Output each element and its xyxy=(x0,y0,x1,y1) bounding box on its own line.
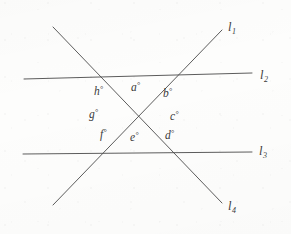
line-l3 xyxy=(23,152,252,154)
angle-label-c: c° xyxy=(170,110,179,123)
degree-symbol-icon: ° xyxy=(171,128,174,138)
line-l1 xyxy=(53,30,222,205)
degree-symbol-icon: ° xyxy=(95,107,98,117)
line-label-l1-subscript: 1 xyxy=(232,27,236,36)
angle-label-f: f° xyxy=(100,128,107,141)
degree-symbol-icon: ° xyxy=(169,86,172,96)
angle-label-b-text: b xyxy=(163,87,169,99)
angle-label-b: b° xyxy=(163,87,172,100)
line-label-l3-subscript: 3 xyxy=(263,151,267,160)
geometry-figure: l1 l2 l3 l4 a° b° c° d° e° f° g° h° xyxy=(0,0,291,234)
degree-symbol-icon: ° xyxy=(100,84,103,94)
degree-symbol-icon: ° xyxy=(104,127,107,137)
degree-symbol-icon: ° xyxy=(175,109,178,119)
angle-label-a-text: a xyxy=(131,81,137,93)
line-label-l2: l2 xyxy=(260,69,268,84)
intersecting-lines-diagram xyxy=(0,0,291,234)
angle-label-d-text: d xyxy=(165,129,171,141)
angle-label-d: d° xyxy=(165,129,174,142)
line-label-l4-subscript: 4 xyxy=(232,206,236,215)
degree-symbol-icon: ° xyxy=(137,80,140,90)
line-label-l3: l3 xyxy=(259,145,267,160)
line-label-l1: l1 xyxy=(228,21,236,36)
line-label-l2-subscript: 2 xyxy=(264,75,268,84)
degree-symbol-icon: ° xyxy=(135,130,138,140)
line-l4 xyxy=(53,27,222,203)
angle-label-g-text: g xyxy=(89,108,95,120)
angle-label-h-text: h xyxy=(94,85,100,97)
line-label-l4: l4 xyxy=(228,200,236,215)
angle-label-e: e° xyxy=(130,131,139,144)
angle-label-f-text: f xyxy=(100,128,103,140)
line-l2 xyxy=(24,73,252,79)
angle-label-a: a° xyxy=(131,81,140,94)
angle-label-h: h° xyxy=(94,85,103,98)
angle-label-g: g° xyxy=(89,108,98,121)
